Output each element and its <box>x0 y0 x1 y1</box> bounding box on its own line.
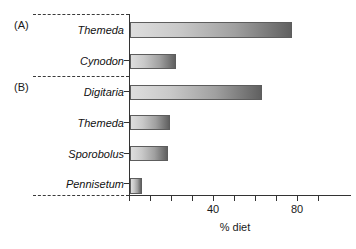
x-tick-30 <box>192 196 193 201</box>
group-separator-top <box>33 14 129 15</box>
x-tick-0 <box>129 196 130 201</box>
bar-label-pennisetum: Pennisetum <box>66 178 124 190</box>
bar-digitaria <box>130 85 262 100</box>
y-tick-1 <box>124 60 129 61</box>
group-separator-middle <box>33 76 129 77</box>
y-tick-4 <box>124 153 129 154</box>
x-tick-20 <box>171 196 172 201</box>
x-tick-10 <box>150 196 151 201</box>
x-tick-50 <box>234 196 235 201</box>
bar-sporobolus <box>130 146 168 161</box>
bar-themeda-a <box>130 22 292 38</box>
x-tick-80 <box>297 196 298 201</box>
x-tick-90 <box>318 196 319 201</box>
group-separator-bottom <box>33 195 129 196</box>
bar-label-themeda-b: Themeda <box>78 117 124 129</box>
x-axis-title: % diet <box>220 221 251 233</box>
x-tick-label-40: 40 <box>207 203 219 215</box>
bar-label-digitaria: Digitaria <box>84 86 124 98</box>
x-tick-label-80: 80 <box>291 203 303 215</box>
y-axis-line <box>129 14 130 195</box>
group-label-a: (A) <box>14 19 29 31</box>
x-tick-60 <box>255 196 256 201</box>
bar-themeda-b <box>130 115 170 130</box>
y-tick-5 <box>124 183 129 184</box>
y-tick-3 <box>124 122 129 123</box>
x-tick-70 <box>276 196 277 201</box>
group-label-b: (B) <box>14 81 29 93</box>
chart-figure: (A) (B) Themeda Cynodon Digitaria Themed… <box>0 0 356 249</box>
bar-label-themeda-a: Themeda <box>78 24 124 36</box>
bar-label-cynodon: Cynodon <box>80 55 124 67</box>
y-tick-2 <box>124 91 129 92</box>
bar-pennisetum <box>130 178 142 194</box>
bar-label-sporobolus: Sporobolus <box>68 148 124 160</box>
x-tick-40 <box>213 196 214 201</box>
bar-cynodon <box>130 54 176 69</box>
plot-area: 40 80 % diet <box>129 14 351 195</box>
